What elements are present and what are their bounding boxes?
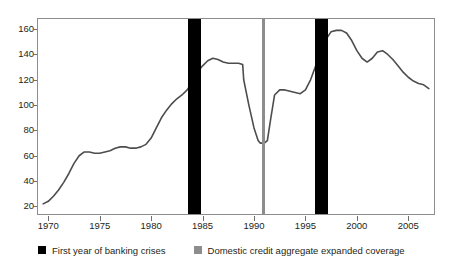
- x-axis-tick-label: 1990: [234, 220, 274, 231]
- y-axis-tick-label: 120: [0, 74, 34, 85]
- line-series-svg: [38, 19, 434, 214]
- y-axis-tick-label: 160: [0, 23, 34, 34]
- x-axis-tick-mark: [203, 216, 204, 221]
- x-axis-tick-label: 1975: [80, 220, 120, 231]
- x-axis-tick-label: 1985: [183, 220, 223, 231]
- x-axis-tick-mark: [305, 216, 306, 221]
- legend-label: First year of banking crises: [52, 245, 166, 256]
- coverage-expansion-band: [262, 19, 265, 214]
- chart-legend: First year of banking crises Domestic cr…: [38, 241, 438, 259]
- y-axis-tick-label: 140: [0, 48, 34, 59]
- x-axis-tick-label: 2000: [337, 220, 377, 231]
- y-axis-tick-label: 100: [0, 99, 34, 110]
- legend-item-banking-crises: First year of banking crises: [38, 245, 166, 256]
- x-axis-tick-mark: [357, 216, 358, 221]
- chart-title: [37, 0, 435, 5]
- y-axis-tick-label: 80: [0, 124, 34, 135]
- y-axis-tick-label: 60: [0, 150, 34, 161]
- y-axis-tick-label: 40: [0, 175, 34, 186]
- plot-inner: [38, 19, 434, 214]
- line-series-path: [43, 30, 429, 203]
- legend-item-expanded-coverage: Domestic credit aggregate expanded cover…: [194, 245, 405, 256]
- x-axis-tick-mark: [408, 216, 409, 221]
- x-axis-tick-mark: [48, 216, 49, 221]
- x-axis-tick-mark: [151, 216, 152, 221]
- y-axis-tick-label: 20: [0, 200, 34, 211]
- x-axis-tick-mark: [100, 216, 101, 221]
- x-axis-tick-label: 1995: [285, 220, 325, 231]
- x-axis-tick-label: 2005: [388, 220, 428, 231]
- x-axis-tick-mark: [254, 216, 255, 221]
- x-axis-tick-label: 1980: [131, 220, 171, 231]
- plot-area: [37, 18, 435, 215]
- chart-figure: 20406080100120140160 1970197519801985199…: [0, 0, 450, 267]
- legend-label: Domestic credit aggregate expanded cover…: [208, 245, 405, 256]
- banking-crisis-band: [188, 19, 201, 214]
- legend-swatch-crisis-icon: [38, 246, 46, 254]
- legend-swatch-coverage-icon: [194, 246, 202, 254]
- banking-crisis-band: [315, 19, 328, 214]
- x-axis-tick-label: 1970: [28, 220, 68, 231]
